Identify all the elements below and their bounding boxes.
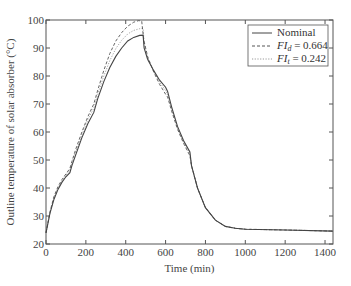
x-tick-label: 1000 xyxy=(234,246,257,258)
y-tick-label: 20 xyxy=(33,238,45,250)
y-tick-label: 100 xyxy=(28,14,45,26)
y-tick-label: 60 xyxy=(33,126,45,138)
x-tick-label: 1400 xyxy=(314,246,337,258)
y-tick-label: 30 xyxy=(33,210,45,222)
x-axis-label: Time (min) xyxy=(164,262,214,275)
legend-label: FId = 0.664 xyxy=(276,39,328,53)
legend-label: FIt = 0.242 xyxy=(276,52,326,66)
x-tick-label: 0 xyxy=(43,246,49,258)
x-tick-labels: 0200400600800100012001400 xyxy=(43,246,336,258)
line-chart: 0200400600800100012001400 20304050607080… xyxy=(0,0,351,286)
y-tick-label: 80 xyxy=(33,70,45,82)
y-axis-label: Outline temperature of solar absorber (°… xyxy=(4,38,17,225)
x-tick-label: 200 xyxy=(78,246,95,258)
y-tick-label: 40 xyxy=(33,182,45,194)
legend-label: Nominal xyxy=(277,26,316,38)
y-tick-labels: 2030405060708090100 xyxy=(28,14,45,250)
x-tick-label: 800 xyxy=(197,246,214,258)
y-tick-label: 90 xyxy=(33,42,45,54)
x-tick-label: 1200 xyxy=(274,246,297,258)
y-tick-label: 50 xyxy=(33,154,45,166)
x-tick-label: 400 xyxy=(117,246,134,258)
legend: NominalFId = 0.664FIt = 0.242 xyxy=(248,25,328,66)
x-tick-label: 600 xyxy=(157,246,174,258)
y-tick-label: 70 xyxy=(33,98,45,110)
